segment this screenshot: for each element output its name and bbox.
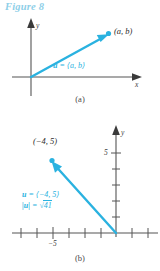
y-axis-label-a: y (36, 22, 39, 30)
panel-a: y x (a, b) u = ⟨a, b⟩ (a) (0, 14, 160, 106)
point-label-b: (−4, 5) (33, 137, 57, 146)
vector-label-b-value: = ⟨−4, 5⟩ (26, 190, 59, 199)
x-tick-label-minus5: −5 (48, 240, 57, 248)
figure-container: Figure 8 y x (a, b) u = ⟨a, b⟩ (0, 0, 160, 271)
panel-b: y 5 −5 (−4, 5) u = ⟨−4, 5⟩ |u| = √41 (b) (0, 112, 160, 271)
panel-a-graphic (0, 14, 160, 106)
vector-label-a-value: = ⟨a, b⟩ (57, 61, 85, 70)
vector-label-b: u = ⟨−4, 5⟩ |u| = √41 (22, 190, 60, 210)
y-axis-label-b: y (121, 129, 124, 137)
x-axis-b (12, 227, 158, 239)
y-axis-b (111, 125, 121, 237)
caption-b: (b) (0, 253, 160, 263)
vector-label-b-line1: u = ⟨−4, 5⟩ (22, 190, 60, 200)
vector-magnitude-eq: = √ (30, 201, 44, 210)
vector-u-a (31, 31, 111, 77)
figure-title: Figure 8 (5, 1, 44, 12)
vector-magnitude-symbol: |u| (22, 201, 30, 210)
vector-magnitude-radicand: 41 (43, 200, 52, 211)
vector-label-b-line2: |u| = √41 (22, 200, 60, 211)
vector-label-a: u = ⟨a, b⟩ (53, 62, 85, 70)
x-axis-label-a: x (135, 81, 138, 89)
y-axis-a (27, 18, 35, 96)
caption-a: (a) (0, 94, 160, 104)
point-label-a: (a, b) (114, 27, 132, 36)
y-tick-label-5: 5 (104, 149, 108, 157)
